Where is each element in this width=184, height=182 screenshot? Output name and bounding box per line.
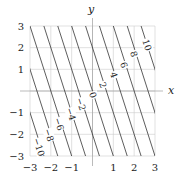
svg-text:−8: −8 bbox=[42, 127, 56, 143]
contour-label: 4 bbox=[108, 70, 120, 80]
x-tick-label: −3 bbox=[23, 162, 38, 173]
x-tick-label: −2 bbox=[43, 162, 58, 173]
svg-text:−4: −4 bbox=[64, 106, 78, 122]
x-tick-label: 2 bbox=[131, 162, 137, 173]
contour-label: 0 bbox=[87, 90, 99, 100]
contour-label: −2 bbox=[74, 96, 88, 112]
contour-plot-svg: −10−8−6−4−20246810 −3−2−1123−3−2−1123 x … bbox=[0, 0, 184, 182]
y-tick-label: 2 bbox=[18, 42, 24, 53]
svg-text:−10: −10 bbox=[31, 136, 46, 157]
y-tick-label: −2 bbox=[9, 129, 24, 140]
contour-label: −4 bbox=[64, 106, 78, 122]
y-tick-label: 3 bbox=[18, 21, 24, 32]
x-tick-label: 3 bbox=[152, 162, 158, 173]
contour-label: 8 bbox=[128, 49, 140, 59]
y-tick-label: −3 bbox=[9, 151, 24, 162]
y-axis-label: y bbox=[87, 3, 95, 16]
x-tick-label: −1 bbox=[64, 162, 79, 173]
contour-label: −6 bbox=[52, 116, 66, 132]
contour-chart: −10−8−6−4−20246810 −3−2−1123−3−2−1123 x … bbox=[0, 0, 184, 182]
x-axis-label: x bbox=[168, 84, 175, 97]
y-tick-label: −1 bbox=[9, 107, 24, 118]
svg-text:2: 2 bbox=[97, 81, 108, 90]
x-tick-label: 1 bbox=[110, 162, 116, 173]
contour-label: 10 bbox=[140, 37, 154, 52]
contour-label: −8 bbox=[42, 127, 56, 143]
contour-label: 6 bbox=[118, 60, 130, 70]
contour-label: −10 bbox=[31, 136, 47, 157]
y-tick-label: 1 bbox=[18, 64, 24, 75]
contour-label: 2 bbox=[97, 80, 109, 90]
svg-text:−2: −2 bbox=[74, 96, 88, 112]
